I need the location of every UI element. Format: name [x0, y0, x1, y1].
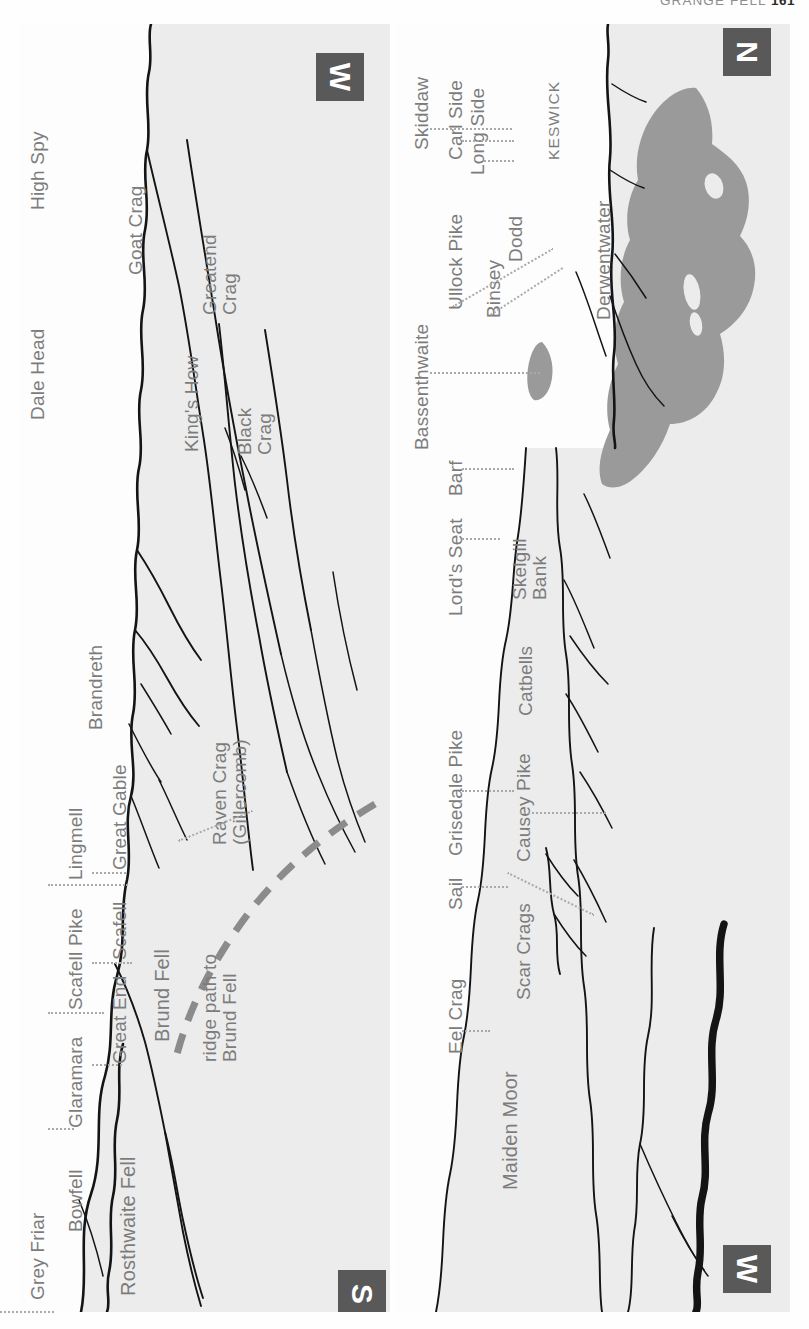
leader-bassenthwaite [430, 372, 540, 374]
leader-scafell [92, 962, 132, 964]
label-raven-crag-gillercomb: Raven Crag (Gillercomb) [210, 739, 250, 845]
compass-marker-w-right: W [723, 1245, 771, 1293]
leader-carl-side [462, 140, 514, 142]
annotation-ridge-path: ridge path to Brund Fell [200, 954, 240, 1062]
page-number: 161 [771, 0, 795, 8]
label-dodd: Dodd [506, 216, 527, 262]
label-bassenthwaite: Bassenthwaite [412, 324, 433, 450]
label-kings-how: King's How [182, 356, 203, 452]
label-scafell: Scafell [110, 902, 131, 960]
label-scar-crags: Scar Crags [514, 903, 535, 1000]
label-dale-head: Dale Head [28, 328, 49, 420]
leader-eel-crag [462, 1030, 490, 1032]
label-ullock-pike: Ullock Pike [446, 214, 467, 310]
label-derwentwater: Derwentwater [594, 200, 615, 320]
label-brund-fell: Brund Fell [152, 949, 174, 1042]
label-great-end: Great End [110, 976, 131, 1064]
compass-marker-n-right: N [723, 28, 771, 76]
label-rosthwaite-fell: Rosthwaite Fell [118, 1156, 140, 1296]
label-glaramara: Glaramara [66, 1036, 87, 1128]
label-goat-crag: Goat Crag [126, 186, 147, 275]
label-great-gable: Great Gable [110, 764, 131, 870]
leader-sail [462, 886, 508, 888]
label-lingmell: Lingmell [66, 808, 87, 880]
leader-great-gable [92, 872, 126, 874]
label-grisedale-pike: Grisedale Pike [446, 730, 467, 856]
leader-grisedale-pike [462, 790, 514, 792]
label-eel-crag: Eel Crag [446, 978, 467, 1054]
leader-barf [462, 468, 514, 470]
compass-marker-s-left: S [338, 1270, 386, 1312]
label-sail: Sail [446, 878, 467, 910]
compass-marker-w-left: W [316, 53, 364, 101]
running-head: GRANGE FELL 161 [660, 0, 795, 8]
leader-long-side [484, 160, 514, 162]
leader-grey-friar [0, 1311, 54, 1313]
label-high-spy: High Spy [28, 131, 49, 210]
label-brandreth: Brandreth [86, 645, 107, 730]
label-scafell-pike: Scafell Pike [66, 908, 87, 1010]
leader-lingmell [48, 884, 128, 886]
label-causey-pike: Causey Pike [514, 753, 535, 862]
label-maiden-moor: Maiden Moor [500, 1071, 522, 1190]
leader-great-end [92, 1064, 122, 1066]
leader-glaramara [48, 1128, 74, 1130]
annotation-ridge-path-italic: ridge path to [200, 954, 220, 1062]
leader-skiddaw [430, 128, 512, 130]
leader-scafell-pike [48, 1012, 104, 1014]
label-greatend-crag: Greatend Crag [200, 234, 240, 315]
label-binsey: Binsey [484, 260, 505, 318]
running-head-title: GRANGE FELL [660, 0, 766, 8]
label-catbells: Catbells [516, 646, 537, 716]
label-bowfell: Bowfell [66, 1169, 87, 1232]
annotation-ridge-path-target: Brund Fell [220, 954, 240, 1062]
label-lords-seat: Lord's Seat [446, 518, 467, 616]
label-skiddaw: Skiddaw [412, 77, 433, 150]
label-keswick: KESWICK [546, 81, 563, 160]
label-skelgill-bank: Skelgill Bank [510, 538, 550, 600]
label-black-crag: Black Crag [235, 408, 275, 455]
label-barf: Barf [446, 460, 467, 496]
label-grey-friar: Grey Friar [28, 1213, 49, 1301]
book-page: GRANGE FELL 161 [0, 0, 809, 1329]
leader-lords-seat [462, 538, 500, 540]
leader-causey-pike [520, 812, 606, 814]
label-carl-side: Carl Side [446, 80, 467, 160]
